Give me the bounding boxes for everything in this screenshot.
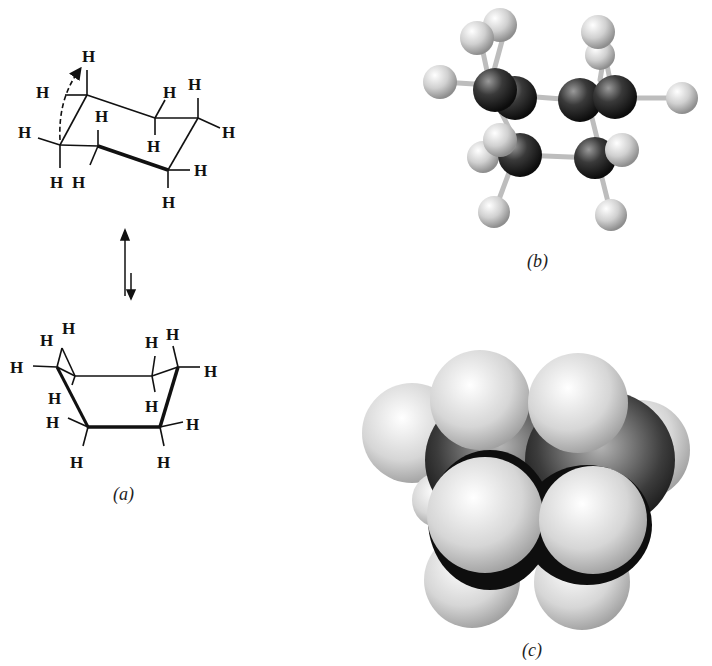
caption-a: (a) xyxy=(113,484,134,505)
space-filling-model xyxy=(362,350,690,630)
h-label: H xyxy=(163,83,176,102)
h-label: H xyxy=(194,161,207,180)
h-label: H xyxy=(186,415,199,434)
chair-conformation: H H H H H H H H H H H H xyxy=(18,47,235,212)
h-label: H xyxy=(145,333,158,352)
h-label: H xyxy=(157,453,170,472)
equilibrium-arrow-icon xyxy=(121,230,135,299)
h-label: H xyxy=(162,193,175,212)
h-label: H xyxy=(166,325,179,344)
h-label: H xyxy=(147,137,160,156)
h-label: H xyxy=(50,173,63,192)
h-label: H xyxy=(62,319,75,338)
h-label: H xyxy=(204,362,217,381)
h-label: H xyxy=(40,331,53,350)
h-label: H xyxy=(188,75,201,94)
h-label: H xyxy=(82,47,95,66)
cyclohexane-figure: H H H H H H H H H H H H xyxy=(0,0,712,666)
h-label: H xyxy=(10,358,23,377)
h-label: H xyxy=(46,413,59,432)
h-label: H xyxy=(72,173,85,192)
boat-conformation: H H H H H H H H H H H H xyxy=(10,319,217,472)
caption-c: (c) xyxy=(522,640,542,661)
h-label: H xyxy=(48,389,61,408)
h-label: H xyxy=(145,397,158,416)
h-label: H xyxy=(70,453,83,472)
h-label: H xyxy=(95,107,108,126)
h-label: H xyxy=(36,83,49,102)
ball-and-stick-model xyxy=(423,8,698,231)
h-label: H xyxy=(18,123,31,142)
h-label: H xyxy=(222,123,235,142)
caption-b: (b) xyxy=(527,251,548,272)
